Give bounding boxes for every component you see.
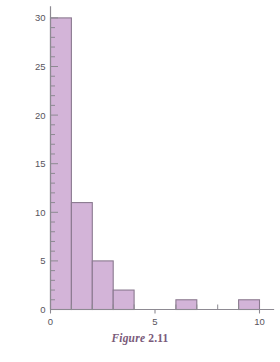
x-axis-tick-label: 0 (48, 316, 53, 327)
histogram-bar (239, 300, 260, 310)
histogram-bar (71, 203, 92, 310)
x-axis-tick-label: 10 (254, 316, 265, 327)
plot-area: 051015202530 0510 (35, 6, 274, 326)
histogram-bar (113, 290, 134, 309)
figure-container: 051015202530 0510 Figure 2.11 (0, 0, 280, 362)
histogram-chart: 051015202530 0510 (0, 0, 280, 330)
figure-caption: Figure 2.11 (0, 332, 280, 344)
histogram-bar (92, 261, 113, 310)
bars-group (51, 18, 260, 310)
histogram-bar (176, 300, 197, 310)
y-axis-tick-label: 25 (35, 61, 46, 72)
y-axis-tick-label: 30 (35, 12, 46, 23)
x-axis-tick-label: 5 (152, 316, 157, 327)
y-axis-tick-label: 5 (40, 255, 45, 266)
x-axis-tick-labels: 0510 (48, 316, 265, 327)
y-axis-tick-label: 0 (40, 304, 45, 315)
figure-caption-number: 2.11 (148, 332, 168, 344)
y-axis-tick-label: 20 (35, 110, 46, 121)
y-axis-tick-labels: 051015202530 (35, 12, 46, 315)
y-axis-tick-label: 15 (35, 158, 46, 169)
figure-caption-word: Figure (111, 332, 145, 344)
y-axis-tick-label: 10 (35, 207, 46, 218)
